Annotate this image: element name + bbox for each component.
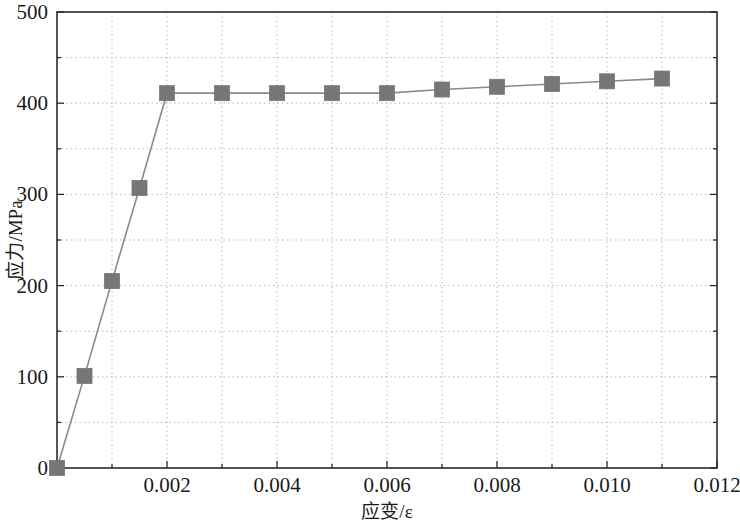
data-series-layer [50,71,670,475]
data-point-marker [50,461,65,476]
data-point-marker [435,82,450,97]
y-tick-label: 500 [17,0,49,24]
chart-canvas: 0.0020.0040.0060.0080.0100.012 010020030… [0,0,740,526]
data-point-marker [215,86,230,101]
data-point-marker [77,368,92,383]
data-point-marker [160,86,175,101]
x-axis-title: 应变/ε [361,501,412,522]
series-line-0 [57,79,662,468]
x-tick-label: 0.010 [583,473,630,497]
x-tick-label: 0.004 [253,473,301,497]
data-point-marker [270,86,285,101]
y-tick-label: 100 [17,365,49,389]
x-tick-label: 0.002 [143,473,190,497]
data-point-marker [325,86,340,101]
y-tick-label: 400 [17,91,49,115]
x-axis-tick-labels: 0.0020.0040.0060.0080.0100.012 [143,473,740,497]
data-point-marker [545,77,560,92]
x-tick-label: 0.012 [693,473,740,497]
stress-strain-chart-figure: 0.0020.0040.0060.0080.0100.012 010020030… [0,0,740,526]
data-point-marker [490,79,505,94]
x-tick-label: 0.008 [473,473,520,497]
x-tick-label: 0.006 [363,473,410,497]
data-point-marker [105,274,120,289]
data-point-marker [655,71,670,86]
y-tick-label: 0 [38,456,49,480]
data-point-marker [600,74,615,89]
data-point-marker [132,181,147,196]
data-point-marker [380,86,395,101]
y-axis-title: 应力/MPa [5,200,26,280]
